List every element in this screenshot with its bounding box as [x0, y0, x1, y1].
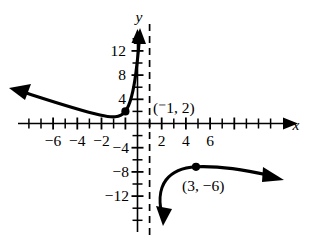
point-marker-local-minimum	[121, 107, 129, 115]
x-tick-label-6: 6	[206, 132, 214, 149]
y-axis-label: y	[134, 8, 143, 25]
coordinate-plane: x y −6 −4 −2 2 4 6 12 8 4 −4 −8 −12 (⁻1,…	[0, 0, 312, 239]
right-branch-right-arrowhead-icon	[262, 167, 284, 182]
right-branch-bottom-arrowhead-icon	[156, 206, 172, 226]
y-tick-label-minus-8: −8	[113, 163, 130, 180]
x-tick-label-minus-4: −4	[69, 132, 86, 149]
y-tick-label-minus-12: −12	[105, 187, 129, 204]
x-tick-label-4: 4	[182, 132, 190, 149]
x-axis-label: x	[292, 116, 300, 133]
annotation-local-maximum: (3, −6)	[182, 177, 224, 195]
x-tick-label-minus-6: −6	[45, 132, 62, 149]
point-marker-local-maximum	[192, 163, 200, 171]
annotation-local-minimum: (⁻1, 2)	[153, 99, 195, 117]
y-tick-label-4: 4	[118, 90, 126, 107]
y-tick-label-8: 8	[118, 66, 126, 83]
y-tick-label-minus-4: −4	[113, 139, 130, 156]
x-tick-label-2: 2	[158, 132, 166, 149]
y-tick-label-12: 12	[111, 42, 127, 59]
x-tick-label-minus-2: −2	[93, 132, 110, 149]
left-branch-arrowhead-icon	[9, 84, 31, 100]
graph-figure: x y −6 −4 −2 2 4 6 12 8 4 −4 −8 −12 (⁻1,…	[0, 0, 312, 239]
